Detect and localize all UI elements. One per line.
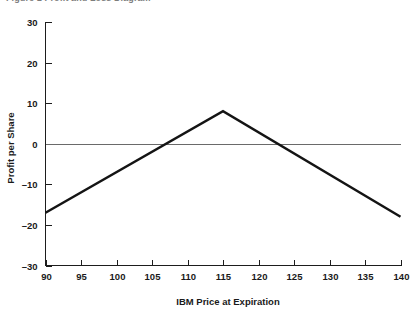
x-tick-label-100: 100 [110,271,126,282]
x-tick-label-95: 95 [76,271,87,282]
figure-root: Figure 1 Profit and Loss Diagram –30–20–… [0,0,412,322]
y-tick-label--10: –10 [22,179,38,190]
x-tick-label-125: 125 [287,271,304,282]
y-tick-label-0: 0 [32,139,37,150]
profit-loss-chart: –30–20–100102030 90951001051101151201251… [0,0,412,322]
y-axis-title: Profit per Share [5,112,16,183]
x-tick-label-90: 90 [41,271,52,282]
x-axis-ticks [47,260,402,266]
y-tick-label-30: 30 [27,17,38,28]
payoff-series-line [46,111,401,217]
x-tick-label-115: 115 [216,271,232,282]
x-tick-label-130: 130 [323,271,339,282]
x-tick-label-105: 105 [145,271,162,282]
y-tick-label-20: 20 [27,58,38,69]
x-tick-label-120: 120 [252,271,268,282]
y-tick-label--30: –30 [22,261,38,272]
x-tick-label-110: 110 [181,271,196,282]
x-tick-label-140: 140 [394,271,410,282]
y-tick-label--20: –20 [22,220,38,231]
y-tick-label-10: 10 [27,98,38,109]
y-axis-tick-labels: –30–20–100102030 [22,17,38,272]
x-axis-tick-labels: 9095100105110115120125130135140 [41,271,409,282]
x-axis-title: IBM Price at Expiration [176,296,280,307]
x-tick-label-135: 135 [358,271,375,282]
